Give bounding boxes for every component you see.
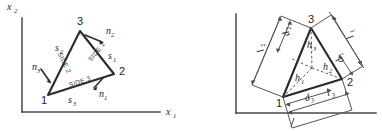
left-panel: x 2 x 1 1 2 3 SIDE 1 SIDE 2 [6,1,176,119]
right-offset-d1: d 1 [332,52,353,76]
left-side-vector-s3-symbol: s [68,94,72,105]
right-centroid-dashed-extra [290,58,312,68]
right-offset-d2: d 2 [276,20,294,53]
left-normal-n2-subscript: 2 [111,31,115,38]
right-offset-d2-arrowhead-end [276,48,281,53]
left-panel-figure: x 2 x 1 1 2 3 SIDE 1 SIDE 2 [0,0,382,131]
right-height-h3-subscript: 3 [312,45,317,52]
right-tick-3 [291,118,294,127]
left-side-vector-s1-subscript: 1 [113,56,116,63]
right-height-h3: h 3 [307,39,317,52]
right-height-h2-subscript: 2 [329,67,333,74]
right-offset-d3: d 3 [285,88,332,107]
left-side-vector-s3-subscript: 3 [72,100,77,107]
left-vertex-label-3: 3 [77,15,83,27]
left-side-vector-s2-symbol: s [55,42,59,53]
y-axis-label-text: x [6,1,12,12]
left-normal-n3-subscript: 3 [36,67,41,74]
right-height-h1-subscript: 1 [301,78,304,85]
left-side-3-label: SIDE 3 [68,74,92,88]
y-axis-label: x 2 [6,1,18,14]
right-panel: 1 2 3 h 1 h 2 h 3 [236,12,376,128]
left-side-vector-s2: s 2 [55,42,64,55]
right-height-h1-symbol: h [295,72,300,83]
left-side-vector-s1: s 1 [108,50,116,63]
right-length-l2-subscript: 2 [258,42,266,48]
x-axis-label-subscript: 1 [173,112,176,119]
right-vertex-label-2: 2 [347,76,353,88]
left-vertex-label-1: 1 [41,94,47,106]
right-height-h3-symbol: h [307,39,312,50]
right-length-l3-subscript: 3 [330,91,337,99]
right-vertex-label-3: 3 [308,13,314,25]
right-vertex-label-1: 1 [276,97,282,109]
right-height-h2-symbol: h [323,61,328,72]
left-vertex-label-2: 2 [119,65,125,77]
right-height-h1: h 1 [295,72,304,85]
left-side-vector-s1-symbol: s [108,50,112,61]
left-side-3-label-text: SIDE 3 [68,74,92,88]
right-length-l1-label: l 1 [343,28,358,41]
x-axis-label: x 1 [165,106,176,119]
left-normal-n1-subscript: 1 [104,94,107,101]
left-side-vector-s3: s 3 [68,94,77,107]
figure-root: x 2 x 1 1 2 3 SIDE 1 SIDE 2 [0,0,382,131]
right-offset-d2-label: d 2 [278,25,294,38]
left-normal-n1: n 1 [93,78,107,101]
right-length-l2-line [253,18,280,83]
right-offset-d2-arrowhead-start [288,20,293,25]
right-length-l1: l 1 [332,15,362,64]
x-axis-label-text: x [165,106,171,117]
right-length-l3-label: l 3 [325,85,337,100]
y-axis-label-subscript: 2 [14,7,18,14]
right-length-l2-arrowhead-end [251,81,256,85]
left-normal-n3: n 3 [32,61,51,84]
right-offset-d3-label: d 3 [303,90,315,105]
right-offset-d3-subscript: 3 [309,96,316,104]
right-length-l3-line [289,94,348,112]
left-triangle-outline [48,31,114,95]
right-length-l3: l 3 [287,85,350,115]
